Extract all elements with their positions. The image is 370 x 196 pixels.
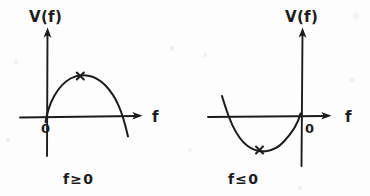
right-origin-label: 0 [305, 121, 314, 136]
left-caption: f≥0 [63, 171, 94, 187]
right-caption: f≤0 [228, 171, 259, 187]
left-v-axis [44, 28, 52, 157]
left-y-axis-label: V(f) [29, 8, 62, 26]
figure-canvas: V(f) f 0 f≥0 [0, 0, 370, 196]
right-v-axis [299, 28, 307, 167]
left-x-axis-label: f [152, 108, 159, 126]
right-curve [222, 96, 301, 151]
panel-right: V(f) f 0 f≤0 [208, 8, 352, 187]
left-origin-label: 0 [41, 121, 50, 136]
panel-left: V(f) f 0 f≥0 [20, 8, 159, 187]
left-curve [46, 75, 129, 136]
right-y-axis-label: V(f) [285, 8, 318, 26]
right-x-axis-label: f [345, 108, 352, 126]
scan-artifacts [6, 13, 360, 190]
